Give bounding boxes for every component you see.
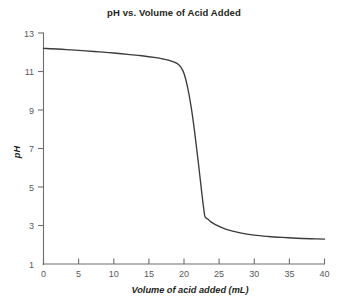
x-tick-label-15: 15 [144, 269, 154, 279]
titration-plot: 13 11 9 7 5 3 1 0 5 10 15 20 25 3 [0, 0, 348, 304]
x-tick-label-40: 40 [319, 269, 329, 279]
y-axis-title: pH [12, 146, 22, 160]
chart-figure: pH vs. Volume of Acid Added 13 11 9 7 5 … [0, 0, 348, 304]
y-axis-tick-labels: 13 11 9 7 5 3 1 [24, 29, 34, 270]
y-tick-label-13: 13 [24, 29, 34, 39]
x-axis-tick-labels: 0 5 10 15 20 25 30 35 40 [41, 269, 330, 279]
titration-curve [44, 48, 325, 239]
x-axis-ticks [44, 259, 325, 265]
x-tick-label-35: 35 [284, 269, 294, 279]
y-axis-ticks [38, 33, 44, 226]
y-tick-label-3: 3 [29, 221, 34, 231]
x-tick-label-20: 20 [179, 269, 189, 279]
x-tick-label-0: 0 [41, 269, 46, 279]
y-tick-label-7: 7 [29, 144, 34, 154]
y-tick-label-1: 1 [29, 260, 34, 270]
y-tick-label-11: 11 [25, 67, 34, 77]
y-tick-label-9: 9 [29, 106, 34, 116]
x-tick-label-25: 25 [214, 269, 224, 279]
x-tick-label-10: 10 [109, 269, 119, 279]
x-tick-label-30: 30 [249, 269, 259, 279]
y-tick-label-5: 5 [29, 183, 34, 193]
x-axis-title: Volume of acid added (mL) [131, 285, 248, 295]
x-tick-label-5: 5 [76, 269, 81, 279]
